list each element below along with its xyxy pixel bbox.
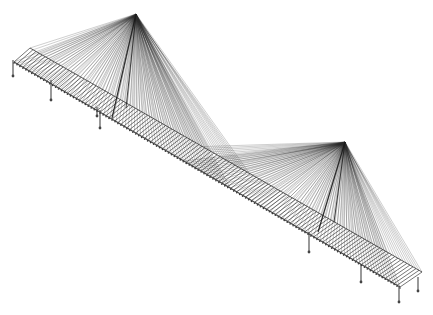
deck-node [153,144,155,146]
deck-node [367,268,369,270]
deck-beam [391,267,413,282]
deck-node [70,95,72,97]
deck-node [242,196,244,198]
deck-node [191,166,193,168]
deck-beam [284,205,304,220]
deck-node [340,253,342,255]
deck-node [245,197,247,199]
deck-beam [41,64,57,78]
deck-node [206,175,208,177]
deck-node [393,284,395,286]
deck-node [221,183,223,185]
deck-node [373,272,375,274]
deck-node [171,154,173,156]
deck-node [352,260,354,262]
deck-node [82,102,84,104]
deck-beam [165,136,183,150]
deck-node [73,97,75,99]
deck-node [355,261,357,263]
pier-foot [99,127,102,130]
deck-node [364,266,366,268]
deck-node [177,157,179,159]
deck-beam [388,265,410,280]
deck-node [85,104,87,106]
deck-node [16,64,18,66]
pier-foot [12,75,15,78]
deck-node [212,178,214,180]
deck-node [298,228,300,230]
deck-beam [287,207,307,222]
deck-node [123,126,125,128]
deck-node [64,92,66,94]
bridge-wireframe-diagram [0,0,433,315]
deck-node [319,241,321,243]
deck-beam [130,115,148,129]
deck-node [147,140,149,142]
deck-node [251,201,253,203]
deck-node [254,202,256,204]
deck-node [194,168,196,170]
deck-node [331,247,333,249]
deck-node [370,270,372,272]
deck-node [126,128,128,130]
deck-beam [361,250,382,265]
deck-node [37,76,39,78]
pier-foot [308,251,311,254]
deck-beam [326,229,347,244]
deck-node [384,279,386,281]
bridge-svg [0,0,433,315]
pier-foot [398,301,401,304]
deck-node [387,280,389,282]
deck-beam [79,86,96,100]
deck-node [239,194,241,196]
deck-node [129,130,131,132]
deck-beam [44,65,61,79]
deck-node [304,232,306,234]
deck-beam [341,238,362,253]
deck-node [25,69,27,71]
deck-beam [266,195,286,210]
deck-node [159,147,161,149]
deck-node [227,187,229,189]
deck-node [180,159,182,161]
deck-node [182,161,184,163]
deck-node [90,107,92,109]
deck-node [316,239,318,241]
deck-node [278,216,280,218]
pier-foot [96,115,99,118]
deck-node [200,171,202,173]
deck-beam [127,114,145,128]
deck-node [334,249,336,251]
deck-node [272,213,274,215]
deck-node [156,145,158,147]
deck-node [269,211,271,213]
deck-node [93,109,95,111]
deck-node [375,273,377,275]
deck-node [233,190,235,192]
deck-beam [222,169,241,184]
deck-node [174,156,176,158]
deck-node [346,256,348,258]
deck-node [40,78,42,80]
deck-node [358,263,360,265]
deck-node [141,137,143,139]
deck-node [390,282,392,284]
deck-node [188,164,190,166]
deck-beam [70,81,87,95]
deck-node [224,185,226,187]
deck-beam [67,79,84,93]
deck-node [111,119,113,121]
deck-node [343,254,345,256]
deck-node [135,133,137,135]
deck-beam [192,151,211,165]
deck-beam [65,77,82,91]
pier-foot [417,290,420,293]
deck-beam [148,126,166,140]
deck-beam [269,196,289,211]
deck-node [396,286,398,288]
deck-node [263,208,265,210]
deck-beam [281,203,301,218]
deck-node [337,251,339,253]
pier-foot [50,99,53,102]
deck-node [257,204,259,206]
